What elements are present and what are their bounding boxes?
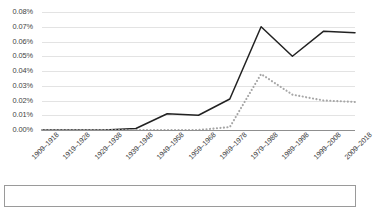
outer-border (4, 185, 356, 207)
y-axis-tick-label: 0.07% (0, 23, 33, 30)
y-axis-tick-label: 0.00% (0, 126, 33, 133)
y-axis-tick-label: 0.02% (0, 97, 33, 104)
y-axis-tick-label: 0.04% (0, 67, 33, 74)
y-axis-tick-label: 0.08% (0, 8, 33, 15)
y-axis-tick-label: 0.03% (0, 82, 33, 89)
y-axis-labels: 0.08%0.07%0.06%0.05%0.04%0.03%0.02%0.01%… (42, 12, 355, 130)
x-axis-labels: 1909–19181919–19281929–19381939–19481949… (42, 131, 355, 185)
y-axis-tick-label: 0.06% (0, 38, 33, 45)
y-axis-tick-label: 0.05% (0, 52, 33, 59)
y-axis-tick-label: 0.01% (0, 111, 33, 118)
